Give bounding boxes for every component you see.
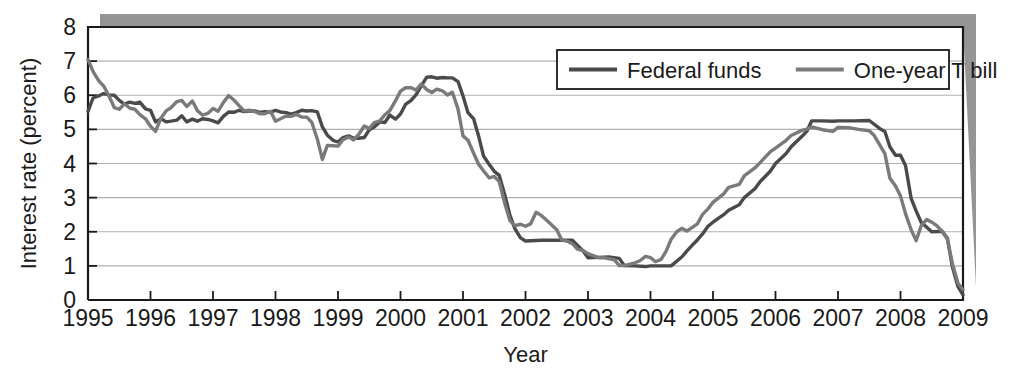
y-tick-label: 7 — [63, 48, 76, 74]
legend-label-0: Federal funds — [627, 58, 762, 83]
y-tick-label: 5 — [63, 116, 76, 142]
y-tick-label: 3 — [63, 185, 76, 211]
chart-figure: 012345678 199519961997199819992000200120… — [0, 0, 1020, 384]
y-tick-label: 8 — [63, 14, 76, 40]
x-tick-label: 1999 — [312, 305, 363, 331]
x-tick-label: 2000 — [375, 305, 426, 331]
x-tick-label: 1997 — [187, 305, 238, 331]
x-axis-title: Year — [503, 342, 547, 367]
y-tick-label: 1 — [63, 253, 76, 279]
y-axis-title: Interest rate (percent) — [16, 58, 41, 270]
x-tick-label: 2007 — [812, 305, 863, 331]
legend-label-1: One-year T bill — [854, 58, 997, 83]
y-tick-label: 6 — [63, 82, 76, 108]
x-tick-label: 2006 — [750, 305, 801, 331]
x-tick-label: 2001 — [437, 305, 488, 331]
x-tick-label: 1998 — [250, 305, 301, 331]
x-tick-label: 2002 — [500, 305, 551, 331]
y-axis-tick-labels: 012345678 — [63, 14, 76, 313]
x-tick-label: 1996 — [125, 305, 176, 331]
gridlines — [88, 61, 963, 266]
chart-legend: Federal fundsOne-year T bill — [557, 50, 997, 89]
x-tick-label: 2005 — [687, 305, 738, 331]
x-axis-tick-labels: 1995199619971998199920002001200220032004… — [62, 305, 988, 331]
x-tick-label: 2009 — [937, 305, 988, 331]
x-tick-label: 2008 — [875, 305, 926, 331]
y-tick-label: 4 — [63, 151, 76, 177]
x-tick-label: 2003 — [562, 305, 613, 331]
x-tick-label: 1995 — [62, 305, 113, 331]
series-line-one-year-t-bill — [88, 59, 963, 289]
interest-rate-line-chart: 012345678 199519961997199819992000200120… — [0, 0, 1020, 384]
y-tick-label: 2 — [63, 219, 76, 245]
x-tick-label: 2004 — [625, 305, 676, 331]
